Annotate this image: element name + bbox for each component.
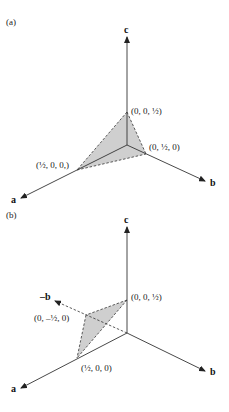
panel-b-a-axis xyxy=(21,333,127,388)
panel-a-point-c: (0, 0, ½) xyxy=(131,106,162,116)
panel-a-b-label: b xyxy=(210,177,216,188)
panel-b-point-neg-b: (0, –½, 0) xyxy=(34,313,69,323)
panel-a-point-a: (½, 0, 0,) xyxy=(36,160,69,170)
diagram-canvas: (a) c a b (0, 0, ½) (0, ½, 0) (½, 0, 0,)… xyxy=(0,0,229,412)
panel-b-b-label: b xyxy=(210,366,216,377)
panel-b-a-label: a xyxy=(11,383,16,394)
panel-a-point-b: (0, ½, 0) xyxy=(149,142,180,152)
panel-b-b-axis xyxy=(127,333,205,371)
panel-b-point-a: (½, 0, 0) xyxy=(81,363,112,373)
panel-b-label: (b) xyxy=(6,210,17,220)
panel-a-a-label: a xyxy=(11,194,16,205)
panel-b-neg-b-label: –b xyxy=(39,291,51,302)
panel-a-a-axis xyxy=(21,145,127,198)
panel-a-c-label: c xyxy=(124,24,129,35)
panel-b-c-label: c xyxy=(124,214,129,225)
panel-a: (a) c a b (0, 0, ½) (0, ½, 0) (½, 0, 0,) xyxy=(6,17,216,205)
panel-a-label: (a) xyxy=(6,17,16,27)
panel-b-point-c: (0, 0, ½) xyxy=(131,292,162,302)
panel-b: (b) c a b –b (0, 0, ½) (0, –½, 0) (½, 0,… xyxy=(6,210,216,394)
panel-a-plane-face xyxy=(77,112,146,170)
